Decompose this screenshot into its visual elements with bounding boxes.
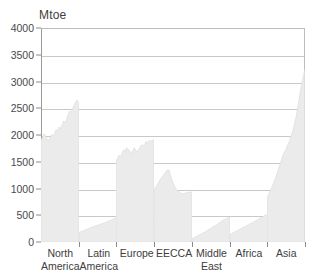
x-axis-category-label-line: EECCA <box>155 247 192 260</box>
y-axis-tick-label: 3000 <box>0 76 34 88</box>
y-axis-tick-label: 500 <box>0 209 34 221</box>
area-series-path <box>230 214 268 242</box>
area-series-path <box>41 100 79 242</box>
chart-root: Mtoe 05001000150020002500300035004000 No… <box>0 0 318 278</box>
x-axis-separator <box>267 242 268 247</box>
area-series-path <box>192 217 230 242</box>
y-axis-unit-label: Mtoe <box>39 8 66 22</box>
y-axis-tick-label: 3500 <box>0 49 34 61</box>
y-axis-tick-label: 4000 <box>0 22 34 34</box>
y-axis-tick-label: 0 <box>0 236 34 248</box>
x-axis-category-label-line: Latin <box>80 247 119 260</box>
area-panel <box>41 28 79 242</box>
x-axis-separator <box>116 242 117 247</box>
x-axis-separator <box>305 242 306 247</box>
x-axis-category-label-line: Asia <box>268 247 305 260</box>
x-axis-category-label-line: America <box>80 260 119 273</box>
x-axis-category-label-line: Middle <box>193 247 230 260</box>
x-axis-category-label: EECCA <box>155 246 192 278</box>
area-panel <box>79 28 117 242</box>
area-panel <box>116 28 154 242</box>
area-series-path <box>267 70 305 242</box>
x-axis-category-label-line: North <box>41 247 80 260</box>
area-panel <box>154 28 192 242</box>
area-panels-group <box>41 28 305 242</box>
area-panel <box>192 28 230 242</box>
area-series-path <box>154 170 192 242</box>
x-axis-category-label: Africa <box>230 246 267 278</box>
x-axis-category-label-line: Europe <box>118 247 155 260</box>
x-axis-separator <box>79 242 80 247</box>
x-axis-separator <box>192 242 193 247</box>
area-panel <box>267 28 305 242</box>
x-axis-category-label: LatinAmerica <box>80 246 119 278</box>
x-axis-category-label: Europe <box>118 246 155 278</box>
x-axis-labels-group: NorthAmericaLatinAmericaEuropeEECCAMiddl… <box>41 246 305 278</box>
x-axis-category-label: MiddleEast <box>193 246 230 278</box>
x-axis-category-label: Asia <box>268 246 305 278</box>
area-series-path <box>79 218 117 242</box>
area-series-path <box>116 140 154 242</box>
x-axis-category-label-line: Africa <box>230 247 267 260</box>
y-axis-tick-label: 1500 <box>0 156 34 168</box>
x-axis-separator <box>154 242 155 247</box>
y-axis-tick-label: 1000 <box>0 183 34 195</box>
y-axis-tick-label: 2000 <box>0 129 34 141</box>
area-panel <box>230 28 268 242</box>
y-axis-tick-label: 2500 <box>0 102 34 114</box>
x-axis-separator <box>230 242 231 247</box>
x-axis-category-label: NorthAmerica <box>41 246 80 278</box>
x-axis-category-label-line: East <box>193 260 230 273</box>
x-axis-category-label-line: America <box>41 260 80 273</box>
